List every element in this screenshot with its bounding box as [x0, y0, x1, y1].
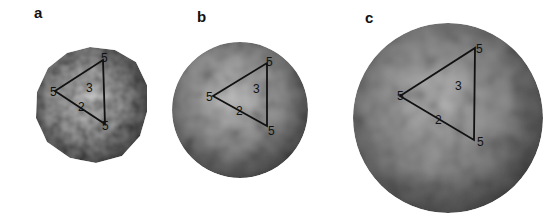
symmetry-axis-label-5fold: 5	[102, 119, 109, 133]
capsid-a-body	[36, 47, 147, 163]
symmetry-axis-label-5fold: 5	[101, 51, 108, 65]
capsid-renderings: 55532 55532 55532	[0, 0, 550, 223]
symmetry-axis-label-5fold: 5	[268, 124, 275, 138]
symmetry-axis-label-5fold: 5	[206, 90, 213, 104]
capsid-a: 55532	[36, 47, 147, 163]
capsid-c-body	[353, 23, 543, 213]
symmetry-axis-label-5fold: 5	[476, 42, 483, 56]
symmetry-axis-label-5fold: 5	[397, 89, 404, 103]
symmetry-axis-label-5fold: 5	[50, 85, 57, 99]
capsid-c: 55532	[353, 23, 543, 213]
symmetry-axis-label-2fold: 2	[236, 104, 243, 118]
capsid-b: 55532	[172, 42, 308, 178]
symmetry-axis-label-5fold: 5	[477, 135, 484, 149]
symmetry-axis-label-3fold: 3	[253, 82, 260, 96]
symmetry-axis-label-2fold: 2	[78, 100, 85, 114]
symmetry-axis-label-2fold: 2	[435, 113, 442, 127]
symmetry-axis-label-3fold: 3	[86, 81, 93, 95]
symmetry-axis-label-5fold: 5	[266, 55, 273, 69]
symmetry-axis-label-3fold: 3	[455, 79, 462, 93]
